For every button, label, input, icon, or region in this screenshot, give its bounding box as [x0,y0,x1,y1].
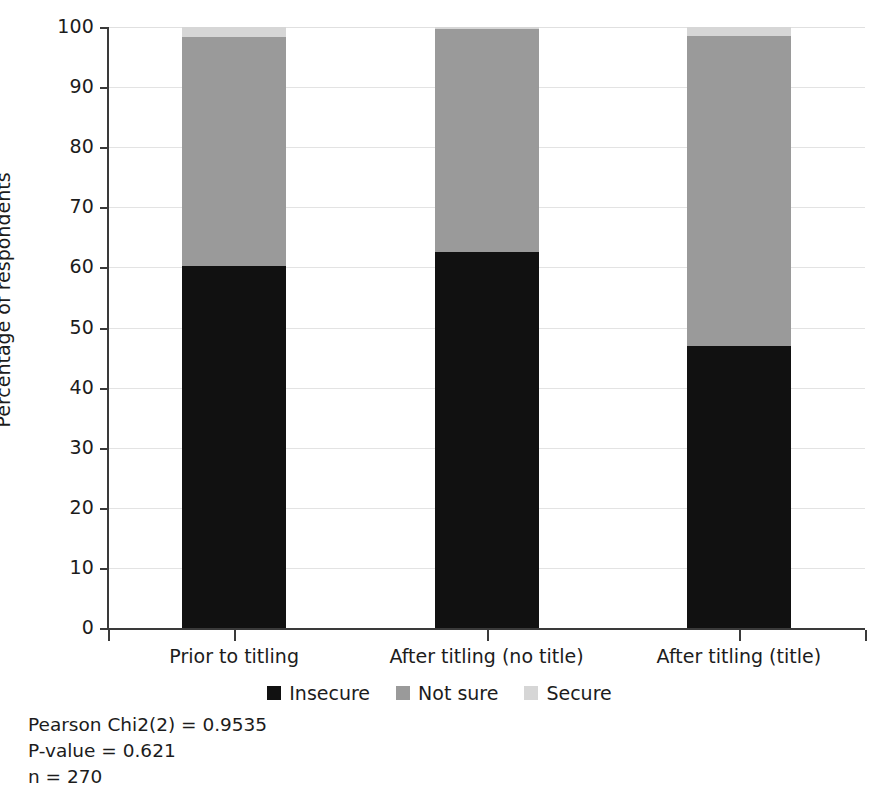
bar-3 [687,27,791,628]
legend-label: Not sure [418,682,498,704]
y-axis-tick [100,27,108,29]
legend-item-insecure: Insecure [267,682,370,704]
y-axis-tick [100,508,108,510]
bar-segment-not-sure [182,37,286,267]
bar-segment-not-sure [687,36,791,346]
y-axis-tick-label: 60 [40,255,94,277]
y-axis-tick [100,568,108,570]
y-axis-tick [100,448,108,450]
y-axis-tick-label: 90 [40,75,94,97]
y-axis-tick-label: 20 [40,496,94,518]
legend-swatch-icon [524,686,538,700]
x-axis-tick [739,630,741,641]
y-axis-tick-label: 80 [40,135,94,157]
footnote-chi2: Pearson Chi2(2) = 0.9535 [28,712,267,738]
legend-item-secure: Secure [524,682,611,704]
plot-area [108,27,865,628]
bar-segment-not-sure [435,29,539,251]
legend-swatch-icon [267,686,281,700]
bar-segment-insecure [182,266,286,628]
legend-label: Secure [546,682,611,704]
y-axis-tick-label: 100 [40,15,94,37]
y-axis-tick [100,388,108,390]
x-axis-tick-label: Prior to titling [169,645,299,667]
legend-item-not-sure: Not sure [396,682,498,704]
y-axis-tick-label: 0 [40,616,94,638]
bar-segment-insecure [435,252,539,628]
y-axis-title: Percentage of respondents [0,172,14,427]
y-axis-tick [100,628,108,630]
x-axis-tick-label: After titling (no title) [389,645,583,667]
bar-segment-secure [687,27,791,36]
y-axis-tick-label: 10 [40,556,94,578]
legend-label: Insecure [289,682,370,704]
bar-1 [182,27,286,628]
stacked-bar-chart-figure: 0102030405060708090100 Prior to titlingA… [0,0,879,799]
x-axis-tick-label: After titling (title) [657,645,822,667]
y-axis-tick [100,328,108,330]
legend-swatch-icon [396,686,410,700]
y-axis-tick-label: 40 [40,376,94,398]
y-axis-tick [100,87,108,89]
y-axis-tick-label: 30 [40,436,94,458]
bar-segment-secure [435,27,539,29]
x-axis-tick [487,630,489,641]
y-axis-tick [100,267,108,269]
bar-2 [435,27,539,628]
bar-segment-insecure [687,346,791,628]
x-axis-tick [234,630,236,641]
bar-segment-secure [182,27,286,37]
chart-legend: InsecureNot sureSecure [0,682,879,704]
y-axis-tick-label: 70 [40,195,94,217]
y-axis-tick [100,147,108,149]
chart-footnotes: Pearson Chi2(2) = 0.9535 P-value = 0.621… [28,712,267,790]
y-axis-tick-label: 50 [40,316,94,338]
footnote-pvalue: P-value = 0.621 [28,738,267,764]
x-axis-edge-tick [108,630,110,641]
x-axis-edge-tick [865,630,867,641]
y-axis-tick [100,207,108,209]
footnote-n: n = 270 [28,764,267,790]
